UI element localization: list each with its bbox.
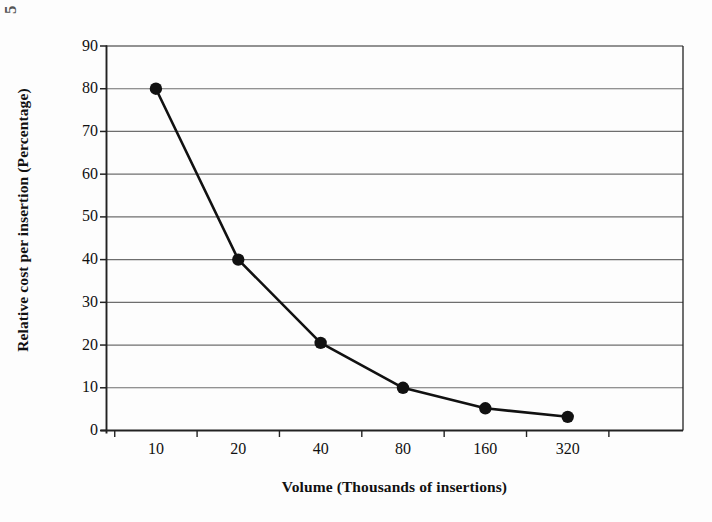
- data-point-marker: [562, 411, 574, 423]
- data-markers: [150, 83, 574, 424]
- plot-frame: [101, 46, 684, 434]
- chart-figure: 5 Relative cost per insertion (Percentag…: [0, 0, 712, 522]
- axis-ticks: [100, 46, 609, 437]
- data-point-marker: [479, 402, 491, 414]
- data-point-marker: [150, 83, 162, 95]
- gridlines: [107, 46, 684, 388]
- data-point-marker: [314, 337, 326, 349]
- data-line: [156, 89, 568, 417]
- plot-area: [0, 0, 712, 522]
- data-point-marker: [232, 253, 244, 265]
- data-point-marker: [397, 382, 409, 394]
